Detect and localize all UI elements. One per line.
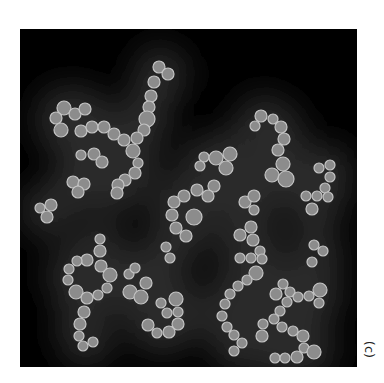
particle [301,191,311,201]
particle [255,110,267,122]
particle [74,331,84,341]
particle [103,268,117,282]
particle [257,254,267,264]
particle [191,184,203,196]
particle [223,147,237,161]
particle [220,299,230,309]
particle [242,275,252,285]
particle [72,256,82,266]
particle [313,283,327,297]
particle [256,330,268,342]
particle [235,253,245,263]
particle [276,157,290,171]
particle [304,291,314,301]
particle [166,209,178,221]
particle [78,341,88,351]
particle [134,290,148,304]
particle [278,133,290,145]
particle [288,326,298,336]
particle [270,353,280,363]
particle [222,322,232,332]
particle [195,161,205,171]
particle [118,134,130,146]
panel-label: (c) [362,339,377,361]
particle [152,328,162,338]
particle [180,230,192,242]
particle [86,121,98,133]
particle [173,307,183,317]
particle [318,246,328,256]
particle [245,221,257,233]
particle [165,253,175,263]
particle [161,242,171,252]
particle [88,337,98,347]
particle [162,308,172,318]
particle [219,161,233,175]
particle [63,275,73,285]
particle [282,297,292,307]
particle [45,199,57,211]
particle [247,234,259,246]
particle [278,171,294,187]
particle [93,290,103,300]
particle [95,234,105,244]
particle [168,196,180,208]
particle [74,318,86,330]
particle [94,245,106,257]
micrograph-panel [20,29,357,367]
particle [248,190,260,202]
particle [229,330,239,340]
particle [217,311,227,321]
particle [96,156,108,168]
particle [142,319,154,331]
particle [229,346,239,356]
particle [75,125,87,137]
particle [102,283,112,293]
particle [270,288,282,300]
particle [275,121,287,133]
particle [291,351,303,363]
particle [237,338,247,348]
particle [307,257,317,267]
particle [309,240,319,250]
particle [314,163,324,173]
particle [225,289,235,299]
particle [246,253,256,263]
particle [272,144,284,156]
particle [130,263,140,273]
particle [234,229,246,241]
particle [314,298,324,308]
particle [81,254,93,266]
particle [54,123,68,137]
particle [258,319,268,329]
particle [111,187,123,199]
particle [293,292,303,302]
particle [297,330,309,342]
particle [79,103,91,115]
particle [163,326,175,338]
particle [76,150,86,160]
particle [186,209,202,225]
particle [325,172,335,182]
particle [278,279,288,289]
particle [162,68,174,80]
particle [307,345,321,359]
particle [249,205,259,215]
particle [50,112,62,124]
particle [78,306,90,318]
particle [72,186,84,198]
particle [131,132,143,144]
particle-scene [20,29,357,367]
particle [41,211,53,223]
particle [64,264,74,274]
particle [148,76,160,88]
particle [312,191,322,201]
particle [156,298,166,308]
particle [250,121,260,131]
particle [140,277,152,289]
particle [323,192,333,202]
particle [81,292,93,304]
particle [325,160,335,170]
particle [233,281,243,291]
particle [145,90,157,102]
